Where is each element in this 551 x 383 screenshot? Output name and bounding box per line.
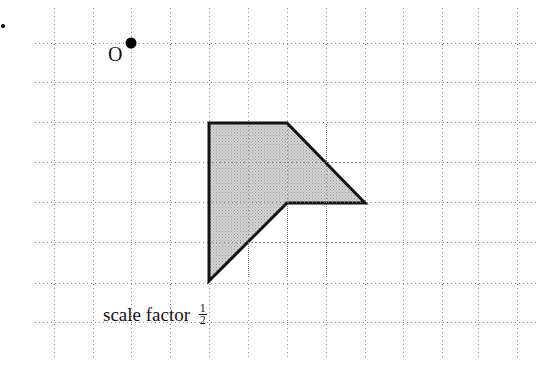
fraction-denominator: 2 bbox=[200, 315, 206, 326]
stray-dot bbox=[1, 24, 5, 28]
center-label: O bbox=[108, 43, 122, 66]
fraction: 1 2 bbox=[199, 303, 207, 326]
scale-factor-caption: scale factor 1 2 bbox=[103, 304, 207, 328]
center-point-o bbox=[126, 38, 137, 49]
grid bbox=[0, 0, 551, 383]
caption-text: scale factor bbox=[103, 304, 190, 325]
